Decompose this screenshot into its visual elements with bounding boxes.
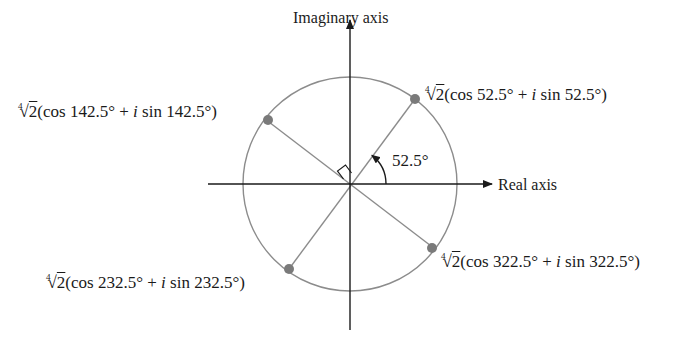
root-label-52: 4√2(cos 52.5° + i sin 52.5°)	[425, 86, 607, 103]
root-label-322: 4√2(cos 322.5° + i sin 322.5°)	[441, 253, 640, 270]
root-point-232	[284, 264, 294, 274]
root-point-142	[263, 115, 273, 125]
imaginary-axis-label: Imaginary axis	[293, 10, 389, 26]
fourth-root-2: 4√2	[46, 274, 65, 291]
real-axis-label: Real axis	[498, 177, 557, 193]
fourth-root-2: 4√2	[18, 103, 37, 120]
complex-plane-diagram	[0, 0, 691, 353]
fourth-root-2: 4√2	[441, 253, 460, 270]
angle-arc-icon	[372, 155, 386, 184]
angle-label: 52.5°	[392, 152, 429, 169]
fourth-root-2: 4√2	[425, 86, 444, 103]
root-point-322	[427, 243, 437, 253]
root-point-52	[410, 94, 420, 104]
root-label-232: 4√2(cos 232.5° + i sin 232.5°)	[46, 274, 245, 291]
root-label-142: 4√2(cos 142.5° + i sin 142.5°)	[18, 103, 217, 120]
